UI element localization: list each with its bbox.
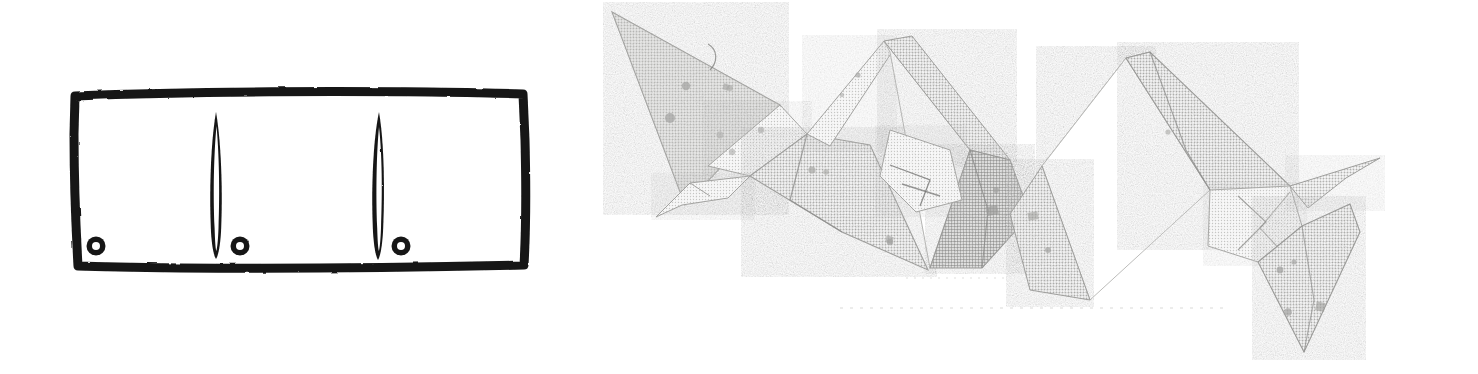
ink-diagram-canvas <box>0 0 600 374</box>
ring-2 <box>231 237 250 256</box>
needle-1 <box>210 112 222 259</box>
ring-3 <box>392 237 411 256</box>
panel-origami-photo <box>590 0 1478 374</box>
origami-photo-canvas <box>590 0 1478 374</box>
figure-root: Origami crane figure Hand drawn black in… <box>0 0 1478 374</box>
panel-ink-diagram <box>0 0 600 374</box>
rectangle-frame <box>74 92 526 269</box>
needle-2 <box>372 112 384 260</box>
ring-1 <box>87 237 106 256</box>
